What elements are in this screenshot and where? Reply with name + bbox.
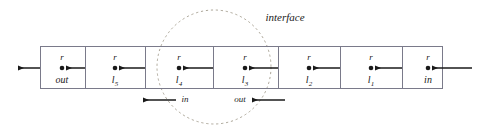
out-flow-label: out — [234, 95, 246, 104]
cell-label-sub: 5 — [115, 80, 119, 88]
node-dot — [426, 66, 431, 71]
cell-label-sub: 1 — [371, 80, 375, 88]
cell-label-out: out — [56, 75, 69, 88]
cell-label-l5: l5 — [112, 75, 118, 88]
node-dot — [369, 66, 374, 71]
cell-label-in: in — [424, 75, 432, 88]
in-flow-label: in — [181, 95, 188, 104]
resistance-label-l4: r — [177, 53, 181, 62]
diagram-canvas — [0, 0, 482, 137]
cell-label-sub: 3 — [245, 80, 249, 88]
cell-label-l1: l1 — [368, 75, 374, 88]
cell-label-sub: 2 — [309, 80, 313, 88]
resistance-label-l1: r — [369, 53, 373, 62]
node-dot — [177, 66, 182, 71]
resistance-label-l3: r — [243, 53, 247, 62]
interface-label: interface — [265, 12, 304, 23]
cell-label-l2: l2 — [306, 75, 312, 88]
resistance-label-out: r — [60, 53, 64, 62]
cell-label-l3: l3 — [242, 75, 248, 88]
cell-label-l4: l4 — [176, 75, 182, 88]
cell-label-sub: 4 — [179, 80, 183, 88]
node-dot — [113, 66, 118, 71]
resistance-label-l2: r — [307, 53, 311, 62]
node-dot — [307, 66, 312, 71]
node-dot — [60, 66, 65, 71]
node-dot — [243, 66, 248, 71]
node-dots — [60, 66, 431, 71]
cell-label-base: out — [56, 74, 69, 85]
conduction-cells-diagram: interface r r r r r r r out l5 l4 l3 l2 … — [0, 0, 482, 137]
resistance-label-in: r — [426, 53, 430, 62]
resistance-label-l5: r — [113, 53, 117, 62]
cell-label-base: in — [424, 74, 432, 85]
